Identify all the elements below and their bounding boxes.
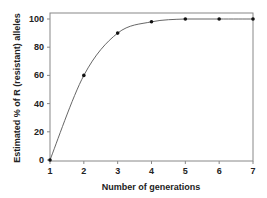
y-tick-label: 20 <box>34 127 44 137</box>
plot-frame <box>50 13 253 161</box>
x-tick-label: 2 <box>81 166 86 176</box>
y-axis-label: Estimated % of R (resistant) alleles <box>12 13 22 163</box>
x-axis-label: Number of generations <box>102 182 201 192</box>
data-point <box>150 20 154 24</box>
y-tick-label: 60 <box>34 70 44 80</box>
data-point <box>48 158 52 162</box>
x-tick-label: 3 <box>115 166 120 176</box>
y-tick-label: 80 <box>34 42 44 52</box>
data-point <box>116 31 120 35</box>
y-axis-ticks: 020406080100 <box>29 14 50 165</box>
data-point <box>251 17 255 21</box>
x-tick-label: 6 <box>217 166 222 176</box>
data-points <box>48 17 255 162</box>
data-curve <box>50 19 253 160</box>
x-axis-ticks: 1234567 <box>47 161 255 176</box>
data-point <box>184 17 188 21</box>
y-tick-label: 0 <box>39 155 44 165</box>
x-tick-label: 4 <box>149 166 154 176</box>
x-tick-label: 5 <box>183 166 188 176</box>
x-tick-label: 7 <box>250 166 255 176</box>
y-tick-label: 40 <box>34 99 44 109</box>
data-point <box>82 74 86 78</box>
chart: 020406080100 1234567 Number of generatio… <box>0 0 267 198</box>
y-tick-label: 100 <box>29 14 44 24</box>
data-point <box>217 17 221 21</box>
x-tick-label: 1 <box>47 166 52 176</box>
